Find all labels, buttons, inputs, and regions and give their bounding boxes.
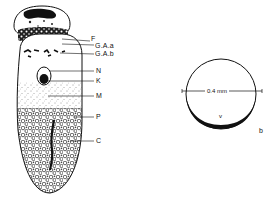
label-P: P [96, 113, 101, 120]
label-C: C [96, 137, 101, 144]
label-nucleolus: K [96, 77, 101, 84]
label-mitochondria: M [96, 92, 102, 99]
nucleolus [40, 74, 49, 84]
cell-illustration [14, 6, 94, 198]
label-golgi-b: G.A.b [95, 50, 114, 57]
scale-label: 0.4 mm [205, 88, 229, 94]
label-v: v [219, 113, 222, 119]
label-F: F [91, 35, 95, 42]
diagram-canvas [0, 0, 279, 203]
label-golgi-a: G.A.a [95, 42, 114, 49]
label-nucleus: N [96, 67, 101, 74]
label-b: b [259, 127, 263, 134]
